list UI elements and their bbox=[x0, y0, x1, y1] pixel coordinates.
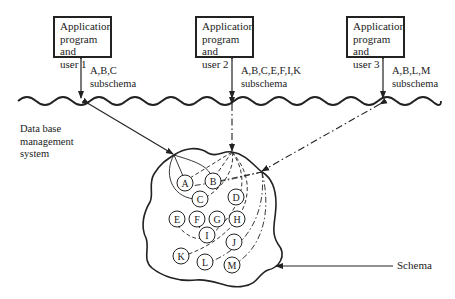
node-C: C bbox=[192, 191, 208, 207]
subschema-1-word: subschema bbox=[90, 78, 136, 91]
svg-text:E: E bbox=[174, 214, 180, 225]
dbms-label-line2: management bbox=[20, 136, 74, 149]
node-F: F bbox=[189, 211, 205, 227]
svg-text:I: I bbox=[205, 230, 208, 241]
svg-text:K: K bbox=[177, 251, 185, 262]
node-G: G bbox=[209, 211, 225, 227]
dbms-label-line1: Data base bbox=[20, 123, 74, 136]
subschema-label-2: A,B,C,E,F,I,K subschema bbox=[241, 65, 301, 90]
node-B: B bbox=[205, 173, 221, 189]
node-K: K bbox=[173, 248, 189, 264]
mapping-arrow-1 bbox=[89, 104, 173, 154]
schema-label: Schema bbox=[397, 259, 432, 272]
node-H: H bbox=[229, 211, 245, 227]
dbms-label-line3: system bbox=[20, 148, 74, 161]
node-J: J bbox=[226, 234, 242, 250]
svg-text:J: J bbox=[232, 237, 236, 248]
node-E: E bbox=[169, 211, 185, 227]
subschema-label-1: A,B,C subschema bbox=[90, 65, 136, 90]
node-A: A bbox=[177, 175, 193, 191]
app2-line2: program and bbox=[202, 33, 247, 58]
svg-text:G: G bbox=[213, 214, 220, 225]
application-box-user-1: Application program and user 1 bbox=[53, 16, 112, 58]
application-box-user-2: Application program and user 2 bbox=[195, 16, 254, 58]
svg-text:C: C bbox=[197, 194, 204, 205]
subschema-label-3: A,B,L,M subschema bbox=[392, 65, 438, 90]
node-L: L bbox=[197, 254, 213, 270]
svg-text:H: H bbox=[233, 214, 240, 225]
mapping-arrow-3 bbox=[262, 104, 380, 171]
svg-text:A: A bbox=[181, 178, 189, 189]
subschema-1-fields: A,B,C bbox=[90, 65, 136, 78]
svg-text:F: F bbox=[194, 214, 200, 225]
svg-text:L: L bbox=[202, 257, 208, 268]
node-I: I bbox=[199, 227, 215, 243]
subschema-3-fields: A,B,L,M bbox=[392, 65, 438, 78]
subschema-2-fields: A,B,C,E,F,I,K bbox=[241, 65, 301, 78]
svg-text:D: D bbox=[232, 192, 239, 203]
dbms-label: Data base management system bbox=[20, 123, 74, 161]
subschema-3-word: subschema bbox=[392, 78, 438, 91]
application-box-user-3: Application program and user 3 bbox=[346, 16, 405, 58]
app3-line1: Application bbox=[353, 20, 398, 33]
dbms-boundary-wave bbox=[18, 97, 441, 105]
node-D: D bbox=[228, 189, 244, 205]
node-M: M bbox=[224, 257, 240, 273]
subschema-2-word: subschema bbox=[241, 78, 301, 91]
schema-nodes: A B C D E F G H I J K L M bbox=[169, 173, 245, 273]
svg-text:M: M bbox=[228, 260, 237, 271]
app1-line2: program and bbox=[60, 33, 105, 58]
app1-line1: Application bbox=[60, 20, 105, 33]
app2-line1: Application bbox=[202, 20, 247, 33]
app3-line2: program and bbox=[353, 33, 398, 58]
svg-text:B: B bbox=[210, 176, 217, 187]
